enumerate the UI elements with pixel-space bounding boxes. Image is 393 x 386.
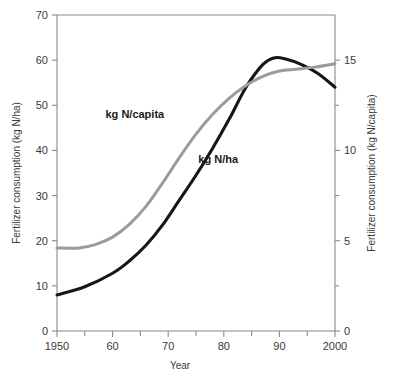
left-tick-label: 40 (36, 144, 48, 156)
left-tick-label: 0 (42, 325, 48, 337)
y-axis-title-right: Fertilizer consumption (kg N/capita) (366, 94, 377, 251)
fertilizer-consumption-line-chart: 010203040506070 051015 1950607080902000 … (0, 0, 393, 386)
left-tick-label: 20 (36, 235, 48, 247)
right-axis-ticks: 051015 (335, 54, 356, 337)
right-tick-label: 0 (344, 325, 350, 337)
chart-figure: 010203040506070 051015 1950607080902000 … (0, 0, 393, 386)
left-tick-label: 30 (36, 190, 48, 202)
left-tick-label: 70 (36, 9, 48, 21)
data-curves (57, 57, 335, 294)
series-annotation-kg-n-capita: kg N/capita (105, 108, 165, 120)
x-axis-title: Year (170, 360, 191, 371)
x-tick-label: 70 (162, 340, 174, 352)
y-axis-title-left: Fertilizer consumption (kg N/ha) (11, 102, 22, 244)
right-tick-label: 5 (344, 235, 350, 247)
series-line-kg-n-capita (57, 57, 335, 294)
right-tick-label: 10 (344, 144, 356, 156)
left-tick-label: 10 (36, 280, 48, 292)
left-axis-ticks: 010203040506070 (36, 9, 57, 337)
left-tick-label: 60 (36, 54, 48, 66)
right-tick-label: 15 (344, 54, 356, 66)
x-tick-label: 80 (218, 340, 230, 352)
x-tick-label: 2000 (323, 340, 347, 352)
x-tick-label: 60 (106, 340, 118, 352)
series-annotation-kg-n-ha: kg N/ha (198, 153, 239, 165)
x-tick-label: 90 (273, 340, 285, 352)
x-axis-ticks: 1950607080902000 (45, 331, 347, 352)
left-tick-label: 50 (36, 99, 48, 111)
x-tick-label: 1950 (45, 340, 69, 352)
series-line-kg-n-ha (57, 64, 335, 248)
